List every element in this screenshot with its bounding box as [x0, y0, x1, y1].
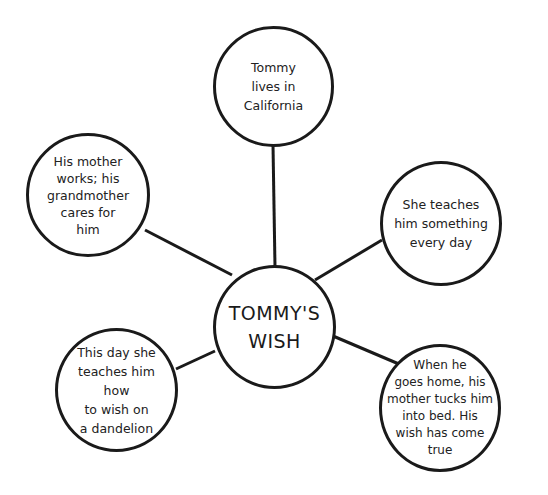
node-right-top: She teaches him something every day: [380, 161, 502, 286]
node-right-top-line: She teaches: [394, 195, 488, 214]
center-title-line2: WISH: [229, 327, 321, 355]
node-left-top-line: him: [47, 221, 129, 238]
node-right-bottom-line: mother tucks him: [387, 391, 493, 408]
node-left-bottom-line: a dandelion: [68, 419, 165, 438]
node-center: TOMMY'S WISH: [213, 265, 336, 389]
node-left-bottom-line: This day she: [68, 343, 165, 362]
connector-top: [273, 145, 275, 267]
node-top-line: California: [244, 96, 303, 115]
node-right-bottom-line: into bed. His: [387, 408, 493, 425]
node-left-top: His mother works; his grandmother cares …: [26, 133, 150, 257]
node-top: Tommy lives in California: [213, 26, 334, 147]
node-right-bottom-line: When he: [387, 357, 493, 374]
connector-left-top: [145, 230, 232, 275]
node-left-top-line: His mother: [47, 153, 129, 170]
node-right-bottom: When he goes home, his mother tucks him …: [379, 344, 501, 472]
node-top-line: Tommy: [244, 58, 303, 77]
node-top-line: lives in: [244, 77, 303, 96]
connector-right-top: [315, 240, 382, 280]
node-left-top-line: cares for: [47, 204, 129, 221]
node-left-bottom-line: to wish on: [68, 400, 165, 419]
node-right-bottom-line: true: [387, 442, 493, 459]
connector-left-bottom: [176, 351, 215, 369]
node-left-top-line: grandmother: [47, 187, 129, 204]
node-right-bottom-line: wish has come: [387, 425, 493, 442]
node-right-top-line: every day: [394, 233, 488, 252]
node-left-bottom-line: teaches him how: [68, 362, 165, 400]
center-title-line1: TOMMY'S: [229, 299, 321, 327]
node-right-bottom-line: goes home, his: [387, 374, 493, 391]
node-right-top-line: him something: [394, 214, 488, 233]
node-left-top-line: works; his: [47, 170, 129, 187]
node-left-bottom: This day she teaches him how to wish on …: [55, 328, 178, 452]
